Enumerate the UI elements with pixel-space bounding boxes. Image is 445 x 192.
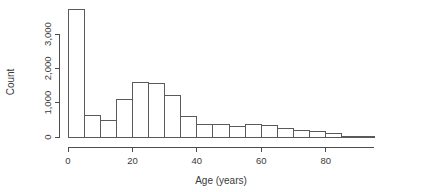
histogram-bar	[213, 124, 229, 137]
y-tick-label: 0	[42, 134, 53, 139]
y-tick-labels: 01,0002,0003,000	[42, 22, 53, 140]
histogram-bar	[261, 126, 277, 137]
x-tick-labels: 020406080	[65, 155, 331, 166]
y-axis	[55, 34, 60, 137]
x-tick-label: 20	[127, 155, 138, 166]
histogram-bar	[310, 131, 326, 137]
histogram-bar	[100, 121, 116, 137]
histogram-bar	[229, 127, 245, 137]
histogram-bar	[165, 95, 181, 137]
histogram-bar	[277, 129, 293, 137]
x-tick-label: 60	[256, 155, 267, 166]
histogram-bar	[181, 117, 197, 137]
histogram-bar	[149, 83, 165, 137]
histogram-bar	[84, 116, 100, 137]
histogram-bar	[197, 125, 213, 137]
histogram-bar	[245, 125, 261, 137]
histogram-figure: 01,0002,0003,000 020406080 Count Age (ye…	[0, 0, 445, 192]
histogram-bar	[116, 100, 132, 137]
y-tick-label: 1,000	[42, 91, 53, 115]
y-tick-label: 3,000	[42, 22, 53, 46]
plot-area: 01,0002,0003,000 020406080 Count Age (ye…	[0, 0, 445, 192]
y-tick-label: 2,000	[42, 56, 53, 80]
histogram-bar	[132, 83, 148, 137]
histogram-bar	[358, 137, 374, 138]
x-tick-label: 40	[192, 155, 203, 166]
x-axis-title: Age (years)	[195, 175, 247, 186]
histogram-svg: 01,0002,0003,000 020406080 Count Age (ye…	[0, 0, 445, 192]
y-axis-title: Count	[5, 68, 16, 95]
histogram-bar	[293, 130, 309, 137]
histogram-bars	[68, 10, 374, 137]
histogram-bar	[342, 136, 358, 137]
x-tick-label: 80	[320, 155, 331, 166]
histogram-bar	[68, 10, 84, 137]
x-tick-label: 0	[65, 155, 70, 166]
x-axis	[68, 148, 374, 153]
histogram-bar	[326, 134, 342, 137]
